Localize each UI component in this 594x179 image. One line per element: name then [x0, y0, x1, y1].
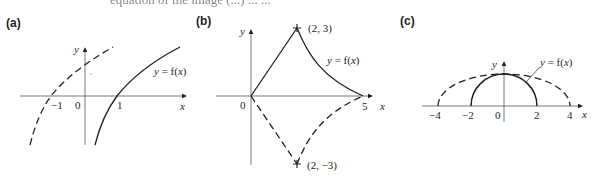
y-axis-label: y: [73, 43, 79, 55]
panel-b: y x 0 5 (2, 3) (2, −3) y = f(x): [216, 22, 385, 172]
tick-neg4: −4: [429, 109, 441, 121]
x-axis-label: x: [379, 100, 385, 112]
point-marker-bottom: [293, 160, 301, 168]
dashed-concave-curve: [297, 96, 363, 164]
tick-0: 0: [495, 109, 501, 121]
curve-label: y = f(x): [153, 65, 187, 78]
solid-line-segment: [251, 28, 297, 96]
tick-2: 2: [534, 109, 540, 121]
y-axis-label: y: [491, 58, 497, 70]
label-leader-line: [526, 68, 539, 82]
panel-c: y x −4 −2 0 2 4 y = f(x): [422, 56, 587, 122]
tick-neg1: −1: [51, 99, 63, 111]
x-axis-label: x: [581, 108, 587, 120]
point-marker-top: [293, 24, 301, 32]
tick-4: 4: [567, 109, 573, 121]
dashed-line-segment: [251, 96, 297, 164]
panel-a: y x −1 0 1 y = f(x): [20, 43, 187, 145]
stray-dot: [90, 73, 92, 75]
point-top-label: (2, 3): [308, 22, 332, 35]
y-axis-label: y: [239, 25, 245, 37]
tick-0: 0: [75, 99, 81, 111]
figure-canvas: y x −1 0 1 y = f(x) y x 0 5 (2, 3) (2, −…: [0, 0, 594, 179]
tick-neg2: −2: [462, 109, 474, 121]
tick-1: 1: [117, 99, 123, 111]
curve-label: y = f(x): [326, 54, 360, 67]
curve-label: y = f(x): [539, 56, 573, 69]
tick-5: 5: [362, 100, 368, 112]
point-bottom-label: (2, −3): [307, 159, 337, 172]
tick-0: 0: [240, 99, 246, 111]
x-axis-label: x: [179, 100, 185, 112]
